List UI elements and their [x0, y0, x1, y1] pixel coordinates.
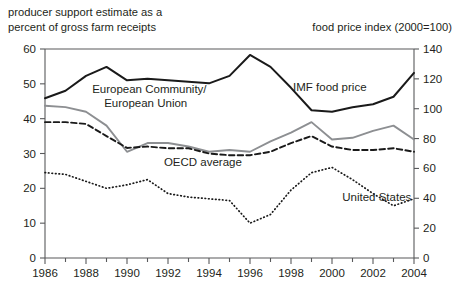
series-label: OECD average — [164, 156, 242, 168]
right-axis-header: food price index (2000=100) — [312, 21, 452, 33]
y-tick-label: 0 — [30, 252, 36, 264]
series-annotations: IMF food priceEuropean Community/Europea… — [92, 81, 411, 203]
x-tick-label: 1996 — [237, 267, 263, 279]
y2-tick-label: 20 — [423, 222, 436, 234]
y2-tick-label: 40 — [423, 192, 436, 204]
series-label: United States — [342, 191, 411, 203]
left-axis-header-line2: percent of gross farm receipts — [8, 21, 156, 33]
y2-tick-label: 80 — [423, 133, 436, 145]
x-tick-label: 2004 — [401, 267, 427, 279]
header-labels: producer support estimate as a percent o… — [8, 6, 452, 33]
x-tick-label: 1994 — [196, 267, 222, 279]
chart-container: producer support estimate as a percent o… — [0, 0, 460, 290]
y-tick-label: 60 — [23, 43, 36, 55]
y-tick-label: 20 — [23, 182, 36, 194]
series-label: European Union — [104, 97, 187, 109]
series-line — [45, 106, 414, 152]
y-tick-label: 50 — [23, 78, 36, 90]
x-tick-label: 1998 — [278, 267, 304, 279]
y-tick-label: 10 — [23, 217, 36, 229]
x-tick-label: 1986 — [32, 267, 58, 279]
x-tick-label: 1992 — [155, 267, 181, 279]
y2-tick-label: 120 — [423, 73, 442, 85]
x-tick-label: 2002 — [360, 267, 386, 279]
x-tick-label: 2000 — [319, 267, 345, 279]
series-label: IMF food price — [293, 81, 367, 93]
x-tick-label: 1988 — [73, 267, 99, 279]
line-chart: producer support estimate as a percent o… — [0, 0, 460, 290]
y2-tick-label: 0 — [423, 252, 429, 264]
series-label: European Community/ — [92, 83, 207, 95]
left-axis-header-line1: producer support estimate as a — [8, 6, 163, 18]
y-tick-label: 40 — [23, 113, 36, 125]
y-tick-label: 30 — [23, 148, 36, 160]
y2-tick-label: 140 — [423, 43, 442, 55]
x-tick-label: 1990 — [114, 267, 140, 279]
y2-tick-label: 100 — [423, 103, 442, 115]
y2-tick-label: 60 — [423, 162, 436, 174]
